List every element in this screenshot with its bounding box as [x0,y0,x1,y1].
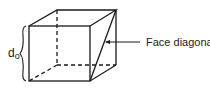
face-diagonal-line [90,10,116,81]
bottom-right-edge [90,65,116,81]
face-diagonal-label: Face diagonal [146,36,210,48]
edge-length-label: do [8,46,20,61]
arrow-head-icon [105,40,110,44]
top-face-edges [29,10,116,26]
brace-icon [20,26,26,81]
cube [29,10,116,81]
front-face [29,26,90,81]
cube-diagram: do Face diagonal [0,0,210,88]
